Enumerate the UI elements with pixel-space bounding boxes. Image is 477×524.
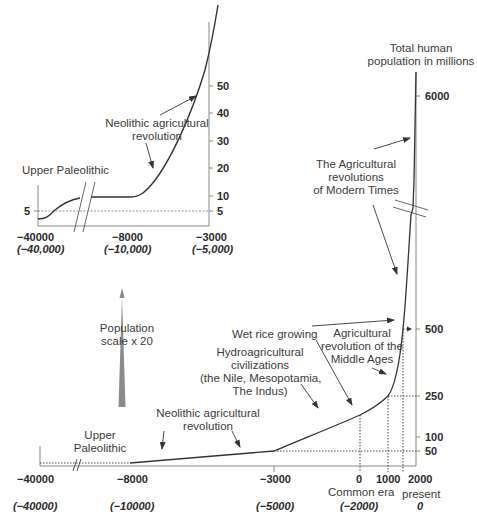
- main-paleo-line2: Paleolithic: [70, 442, 130, 455]
- inset-axis-break-mark: [83, 182, 95, 232]
- population-scale-arrow: [119, 296, 126, 407]
- main-y-axis-break-mark: [393, 207, 426, 217]
- main-y-tick-500: 500: [425, 323, 443, 335]
- inset-x-bp-minus10000: (−10,000): [104, 243, 151, 255]
- main-modern-arrow-upper: [374, 138, 410, 149]
- population-scale-line2: scale x 20: [92, 335, 162, 348]
- main-x-axis-break-mark: [73, 459, 77, 471]
- hydro-line3: (the Nile, Mesopotamia,: [200, 372, 320, 385]
- inset-upper-paleolithic-label: Upper Paleolithic: [22, 164, 109, 177]
- inset-x-tick-minus40000: −40000: [17, 231, 54, 243]
- main-x-bp-0: 0: [417, 500, 423, 512]
- inset-y-tick-10: 10: [217, 190, 229, 202]
- main-paleo-line1: Upper: [70, 429, 130, 442]
- population-scale-arrowhead: [120, 288, 125, 298]
- wet-rice-label: Wet rice growing: [232, 328, 317, 341]
- main-x-bp-minus5000: (−5000): [256, 500, 294, 512]
- middle-ages-label: Agricultural revolution of the Middle Ag…: [318, 327, 406, 366]
- population-scale-label: Population scale x 20: [92, 322, 162, 348]
- main-x-tick-minus40000: −40000: [17, 473, 54, 485]
- main-upper-paleolithic-label: Upper Paleolithic: [70, 429, 130, 455]
- main-neolithic-arrow-left: [162, 431, 164, 449]
- main-title-line2: population in millions: [366, 55, 476, 68]
- main-y-tick-100: 100: [425, 431, 443, 443]
- population-scale-line1: Population: [92, 322, 162, 335]
- main-x-bp-minus10000: (−10000): [110, 500, 154, 512]
- inset-y-tick-20: 20: [217, 162, 229, 174]
- main-y-ticks: [416, 96, 420, 451]
- main-x-bp-minus2000: (−2000): [340, 500, 378, 512]
- middle-ages-line2: revolution of the: [318, 340, 406, 353]
- main-modern-arrow-lower: [373, 205, 397, 274]
- main-y-axis-break-mark: [395, 200, 428, 210]
- main-y-axis-title: Total human population in millions: [366, 42, 476, 68]
- middle-ages-line3: Middle Ages: [318, 353, 406, 366]
- main-neolithic-line1: Neolithic agricultural: [148, 407, 268, 420]
- modern-times-line1: The Agricultural: [306, 158, 406, 171]
- inset-left-y-tick-5: 5: [24, 205, 30, 217]
- hydroagricultural-label: Hydroagricultural civilizations (the Nil…: [200, 346, 320, 398]
- common-era-label: Common era: [328, 486, 394, 499]
- modern-times-label: The Agricultural revolutions of Modern T…: [306, 158, 406, 197]
- main-x-axis-break-mark: [77, 459, 81, 471]
- main-x-tick-minus8000: −8000: [117, 473, 148, 485]
- main-y-tick-6000: 6000: [425, 90, 449, 102]
- inset-neolithic-label: Neolithic agricultural revolution: [92, 117, 222, 143]
- hydro-line1: Hydroagricultural: [200, 346, 320, 359]
- main-rice-arrow-upper: [312, 320, 394, 326]
- main-neolithic-arrow-right: [232, 431, 240, 447]
- modern-times-line2: revolutions: [306, 171, 406, 184]
- inset-y-tick-50: 50: [217, 80, 229, 92]
- main-neolithic-label: Neolithic agricultural revolution: [148, 407, 268, 433]
- main-x-bp-minus40000: (−40000): [13, 500, 57, 512]
- hydro-line4: The Indus): [200, 385, 320, 398]
- modern-times-line3: of Modern Times: [306, 184, 406, 197]
- main-y-tick-250: 250: [425, 390, 443, 402]
- inset-x-bp-minus40000: (−40,000): [17, 243, 64, 255]
- inset-x-tick-minus3000: −3000: [196, 231, 227, 243]
- inset-neolithic-curve: [91, 5, 218, 197]
- main-middle-ages-arrow: [372, 368, 386, 374]
- inset-x-bp-minus5000: (−5,000): [192, 243, 233, 255]
- hydro-line2: civilizations: [200, 359, 320, 372]
- main-x-tick-1000: 1000: [376, 473, 400, 485]
- main-title-line1: Total human: [366, 42, 476, 55]
- inset-y-tick-30: 30: [217, 135, 229, 147]
- inset-y-ticks: [34, 86, 213, 211]
- inset-neolithic-label-line1: Neolithic agricultural: [92, 117, 222, 130]
- main-x-tick-0: 0: [356, 473, 362, 485]
- inset-neolithic-arrow-lower: [146, 143, 153, 168]
- inset-paleolithic-curve: [38, 198, 80, 219]
- main-neolithic-line2: revolution: [148, 420, 268, 433]
- inset-neolithic-label-line2: revolution: [92, 130, 222, 143]
- main-x-tick-minus3000: −3000: [260, 473, 291, 485]
- inset-y-tick-5: 5: [217, 205, 223, 217]
- middle-ages-line1: Agricultural: [318, 327, 406, 340]
- inset-x-tick-minus8000: −8000: [112, 231, 143, 243]
- main-x-tick-2000: 2000: [408, 473, 432, 485]
- inset-axis-break-mark: [74, 182, 86, 232]
- main-y-tick-50: 50: [425, 445, 437, 457]
- inset-y-tick-40: 40: [217, 107, 229, 119]
- main-500-arrowhead: [407, 327, 412, 332]
